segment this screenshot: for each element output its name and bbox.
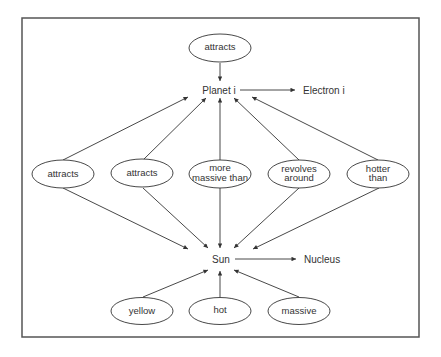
relation-hotter-than: hotter than	[347, 160, 409, 188]
relation-revolves-around: revolves around	[268, 160, 330, 188]
svg-text:attracts: attracts	[47, 168, 78, 179]
edge-hotter-to-sun	[253, 188, 379, 249]
concept-planet: Planet i	[202, 85, 235, 96]
relation-attracts-2: attracts	[111, 159, 173, 187]
edge-attracts1-to-planet	[63, 97, 188, 160]
relation-top-attracts: attracts	[189, 34, 251, 62]
edge-hotter-to-planet	[252, 97, 378, 160]
edge-yellow-to-sun	[143, 270, 208, 297]
svg-text:attracts: attracts	[126, 167, 157, 178]
edge-revolves-to-planet	[234, 98, 299, 160]
semantic-network-diagram: Planet i Electron i Sun Nucleus attracts…	[0, 0, 441, 357]
attribute-massive: massive	[268, 298, 330, 325]
concept-electron: Electron i	[303, 85, 345, 96]
svg-text:hot: hot	[213, 304, 227, 315]
svg-text:around: around	[284, 172, 314, 183]
relation-attracts-1: attracts	[32, 160, 94, 188]
relation-more-massive-than: more massive than	[189, 160, 251, 188]
svg-text:yellow: yellow	[129, 305, 156, 316]
attribute-hot: hot	[189, 298, 251, 325]
attribute-yellow: yellow	[111, 298, 173, 325]
edge-attracts2-to-sun	[143, 188, 208, 248]
svg-text:than: than	[369, 172, 388, 183]
svg-text:massive than: massive than	[192, 172, 248, 183]
edge-attracts1-to-sun	[63, 188, 188, 249]
concept-nucleus: Nucleus	[304, 254, 340, 265]
edge-attracts2-to-planet	[143, 98, 206, 160]
concept-sun: Sun	[212, 254, 230, 265]
svg-text:attracts: attracts	[204, 41, 235, 52]
svg-text:massive: massive	[282, 305, 317, 316]
edge-revolves-to-sun	[234, 188, 299, 248]
edge-massive-to-sun	[234, 270, 299, 297]
